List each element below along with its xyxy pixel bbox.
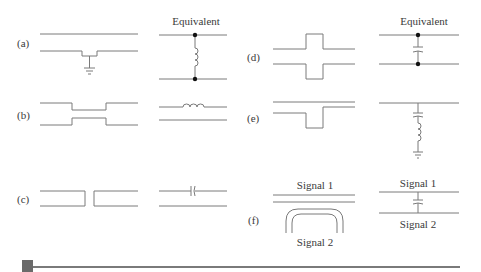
panel-c-equivalent xyxy=(159,186,227,206)
panel-f-original xyxy=(273,195,355,233)
panel-d-equivalent xyxy=(379,33,459,66)
panel-d-original xyxy=(273,34,355,79)
signal-1-left: Signal 1 xyxy=(297,180,333,191)
panel-f-equivalent xyxy=(379,192,459,213)
footer-rule xyxy=(33,266,460,268)
signal-2-left: Signal 2 xyxy=(297,237,333,248)
footer-marker xyxy=(22,260,33,272)
panel-label-f: (f) xyxy=(248,215,259,226)
header-equivalent-right: Equivalent xyxy=(400,16,448,27)
diagram-canvas: Equivalent Equivalent (a) (b) (c) (d) (e… xyxy=(0,0,481,272)
panel-a-original xyxy=(40,34,138,74)
panel-e-equivalent xyxy=(379,103,459,158)
panel-b-equivalent xyxy=(159,104,227,120)
signal-1-right: Signal 1 xyxy=(400,178,436,189)
signal-2-right: Signal 2 xyxy=(400,219,436,230)
panel-label-d: (d) xyxy=(247,52,260,63)
diagram-svg xyxy=(0,0,481,272)
panel-label-b: (b) xyxy=(17,110,30,121)
panel-label-e: (e) xyxy=(247,113,259,124)
panel-a-equivalent xyxy=(159,33,227,81)
panel-e-original xyxy=(273,102,355,128)
panel-label-c: (c) xyxy=(17,194,29,205)
panel-label-a: (a) xyxy=(17,38,29,49)
header-equivalent-left: Equivalent xyxy=(172,16,220,27)
panel-b-original xyxy=(40,103,138,125)
panel-c-original xyxy=(40,191,138,206)
